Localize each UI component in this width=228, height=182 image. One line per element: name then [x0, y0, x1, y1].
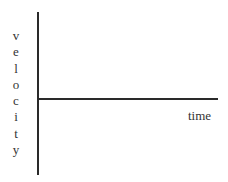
y-axis-line — [37, 12, 39, 175]
y-axis-label: v e l o c i t y — [9, 28, 23, 158]
y-label-letter: i — [9, 109, 23, 125]
y-label-letter: v — [9, 28, 23, 44]
x-axis-label: time — [188, 108, 211, 124]
y-label-letter: t — [9, 126, 23, 142]
x-axis-line — [37, 98, 218, 100]
y-label-letter: l — [9, 61, 23, 77]
y-label-letter: y — [9, 142, 23, 158]
y-label-letter: c — [9, 93, 23, 109]
y-label-letter: e — [9, 44, 23, 60]
y-label-letter: o — [9, 77, 23, 93]
velocity-time-graph: v e l o c i t y time — [0, 0, 228, 182]
